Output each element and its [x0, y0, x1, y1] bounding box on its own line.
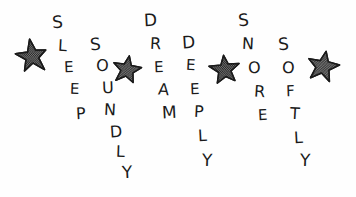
star-3-icon	[206, 50, 243, 87]
doodle-canvas: SLEEPSOUNDLYDREAMDEEPLYSNORESOFTLY	[0, 0, 356, 197]
letter-sleep-4: P	[76, 106, 86, 122]
letter-softly-5: Y	[300, 152, 311, 169]
letter-soundly-2: U	[102, 80, 114, 96]
letter-softly-3: T	[290, 106, 301, 122]
letter-soundly-1: O	[95, 58, 109, 75]
letter-softly-0: S	[277, 36, 289, 54]
letter-sleep-1: L	[58, 38, 68, 54]
letter-snore-1: N	[242, 36, 255, 53]
letter-dream-2: E	[154, 60, 164, 75]
letter-snore-2: O	[248, 60, 261, 76]
letter-dream-3: A	[157, 82, 169, 99]
letter-snore-4: E	[258, 108, 268, 123]
star-4-icon	[302, 45, 345, 88]
letter-softly-2: F	[286, 84, 295, 99]
letter-deeply-1: E	[186, 58, 196, 73]
letter-soundly-5: L	[116, 144, 125, 160]
letter-soundly-3: N	[104, 102, 117, 119]
letter-deeply-0: D	[181, 34, 195, 52]
letter-sleep-2: E	[64, 60, 74, 75]
letter-deeply-3: P	[194, 104, 204, 120]
letter-snore-0: S	[237, 12, 249, 30]
letter-deeply-4: L	[198, 128, 208, 144]
letter-softly-4: L	[294, 130, 304, 146]
letter-soundly-6: Y	[122, 164, 133, 182]
letter-deeply-5: Y	[202, 152, 213, 169]
letter-dream-0: D	[144, 12, 158, 30]
letter-deeply-2: E	[190, 82, 200, 97]
letter-sleep-3: E	[70, 82, 80, 97]
letter-soundly-4: D	[109, 124, 122, 141]
letter-dream-1: R	[150, 36, 162, 53]
letter-soundly-0: S	[89, 36, 101, 54]
letter-snore-3: R	[253, 84, 265, 101]
star-1-icon	[12, 36, 53, 77]
letter-softly-1: O	[282, 60, 295, 77]
letter-dream-4: M	[162, 104, 178, 122]
letter-sleep-0: S	[51, 14, 63, 32]
